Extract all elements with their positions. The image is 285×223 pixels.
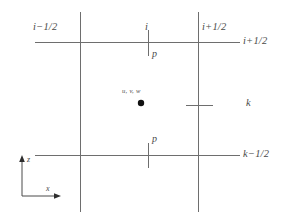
figure-canvas — [0, 0, 285, 223]
label-k-minus-half-right-row: k−1/2 — [243, 149, 269, 160]
cell-center-point — [138, 100, 144, 106]
label-pressure-top: p — [152, 49, 157, 59]
label-z-axis: z — [27, 156, 30, 164]
label-i-plus-half-right-row: i+1/2 — [243, 36, 267, 47]
axis-indicator-group — [19, 155, 61, 199]
label-i-top-center: i — [145, 22, 148, 33]
label-i-minus-half-top: i−1/2 — [33, 22, 57, 33]
x-axis-arrowhead — [54, 193, 61, 199]
label-x-axis: x — [46, 185, 50, 193]
label-k-right-row: k — [246, 98, 251, 109]
staggered-grid-figure: i−1/2 i i+1/2 i+1/2 k k−1/2 p p u, v, w … — [0, 0, 285, 223]
label-i-plus-half-top: i+1/2 — [202, 22, 226, 33]
tick-marks-group — [148, 30, 213, 168]
z-axis-arrowhead — [19, 155, 25, 162]
gridlines-group — [35, 12, 240, 212]
label-cell-center-velocities: u, v, w — [122, 88, 141, 95]
label-pressure-bottom: p — [152, 134, 157, 144]
